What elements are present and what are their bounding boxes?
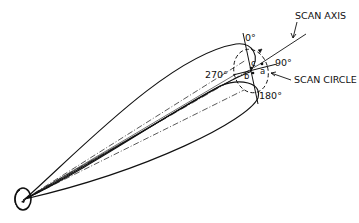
lower-beam-lobe	[25, 82, 258, 199]
label-270-deg: 270°	[205, 69, 228, 80]
label-90-deg: 90°	[275, 57, 292, 68]
label-point-c: c	[251, 58, 256, 68]
point-b-dot	[252, 72, 255, 75]
beam-axis-lower	[25, 90, 244, 199]
label-point-a: a	[260, 66, 265, 76]
antenna-dish-icon	[15, 188, 31, 210]
label-scan-axis: SCAN AXIS	[295, 10, 346, 21]
upper-beam-lobe	[25, 44, 255, 199]
point-a-dot	[261, 63, 264, 66]
label-180-deg: 180°	[259, 90, 282, 101]
scan-circle-leader	[271, 73, 291, 80]
label-scan-circle: SCAN CIRCLE	[294, 74, 357, 85]
label-0-deg: 0°	[245, 32, 256, 43]
scan-axis-line	[25, 64, 260, 199]
label-point-b: b	[244, 71, 249, 81]
conical-scan-diagram: 0° 90° 270° 180° c a b SCAN AXIS SCAN CI…	[0, 0, 359, 223]
beam-axis-upper	[25, 60, 246, 199]
